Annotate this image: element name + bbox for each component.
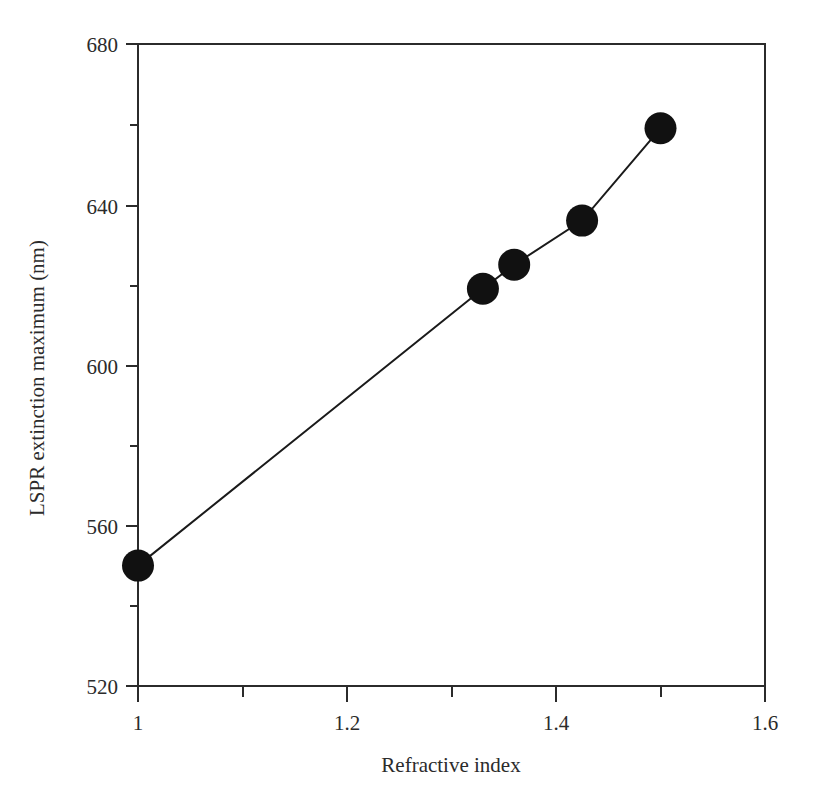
y-axis-title: LSPR extinction maximum (nm) [25,240,49,516]
x-tick-label-1-2: 1.2 [334,711,360,735]
y-tick-label-560: 560 [87,515,119,539]
x-axis-title: Refractive index [381,753,521,777]
x-tick-label-1: 1 [133,711,144,735]
x-axis-minor-ticks [243,686,661,697]
x-tick-label-1-6: 1.6 [752,711,778,735]
y-tick-label-680: 680 [87,33,119,57]
chart-figure: 680 640 600 560 520 1 1.2 1.4 1.6 LSPR e… [0,0,813,796]
y-tick-label-520: 520 [87,675,119,699]
data-point-4 [566,205,598,237]
x-tick-label-1-4: 1.4 [543,711,570,735]
y-tick-label-600: 600 [87,355,119,379]
y-axis-major-ticks [126,44,138,686]
data-point-3 [498,249,530,281]
y-tick-label-640: 640 [87,195,119,219]
data-series-lspr [122,112,677,581]
data-point-2 [467,273,499,305]
data-point-1 [122,550,154,582]
lspr-vs-refractive-index-chart: 680 640 600 560 520 1 1.2 1.4 1.6 LSPR e… [0,0,813,796]
data-point-5 [645,112,677,144]
series-line [138,128,661,565]
